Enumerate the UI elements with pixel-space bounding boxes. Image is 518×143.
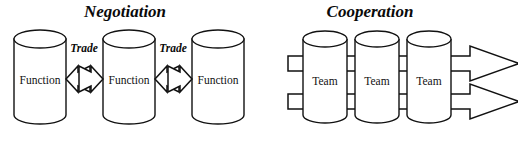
panel-cooperation: Cooperation Team Team [288,2,518,123]
cylinder-top [355,31,399,47]
negotiation-node-3: Function [192,30,244,124]
cooperation-title: Cooperation [327,2,414,21]
negotiation-node-2: Function [103,30,155,124]
negotiation-node-label-2: Function [109,74,150,86]
panel-negotiation: Negotiation Function Function Function [14,2,244,124]
diagram-canvas: Negotiation Function Function Function [0,0,518,143]
trade-label-1: Trade [70,42,98,54]
cylinder-top [14,30,66,48]
cooperation-node-label-2: Team [364,75,389,87]
cooperation-node-3: Team [407,31,451,123]
trade-label-2: Trade [159,42,187,54]
cooperation-node-label-3: Team [416,75,441,87]
cooperation-node-2: Team [355,31,399,123]
cooperation-node-1: Team [303,31,347,123]
cylinder-top [303,31,347,47]
negotiation-title: Negotiation [83,2,166,21]
negotiation-node-label-3: Function [198,74,239,86]
cooperation-node-label-1: Team [312,75,337,87]
negotiation-node-1: Function [14,30,66,124]
concept-diagram: Negotiation Function Function Function [0,0,518,143]
negotiation-node-label-1: Function [20,74,61,86]
trade-arrow-right-2 [168,66,192,92]
trade-connector-1: Trade [66,42,103,92]
cylinder-top [407,31,451,47]
cylinder-top [103,30,155,48]
trade-connector-2: Trade [155,42,192,92]
trade-arrow-right-1 [79,66,103,92]
cylinder-top [192,30,244,48]
